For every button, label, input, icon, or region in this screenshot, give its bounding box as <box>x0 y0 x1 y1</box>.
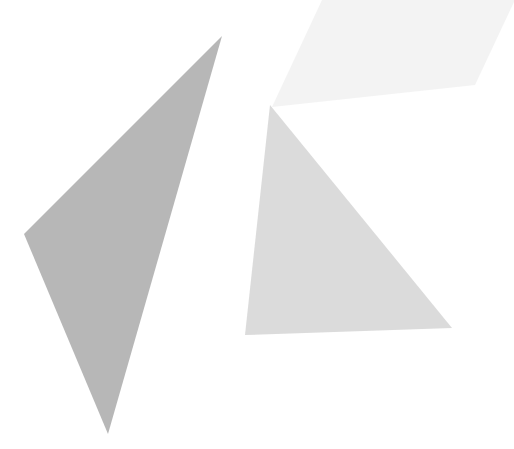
triangles-figure <box>0 0 514 449</box>
image-canvas <box>0 0 514 449</box>
